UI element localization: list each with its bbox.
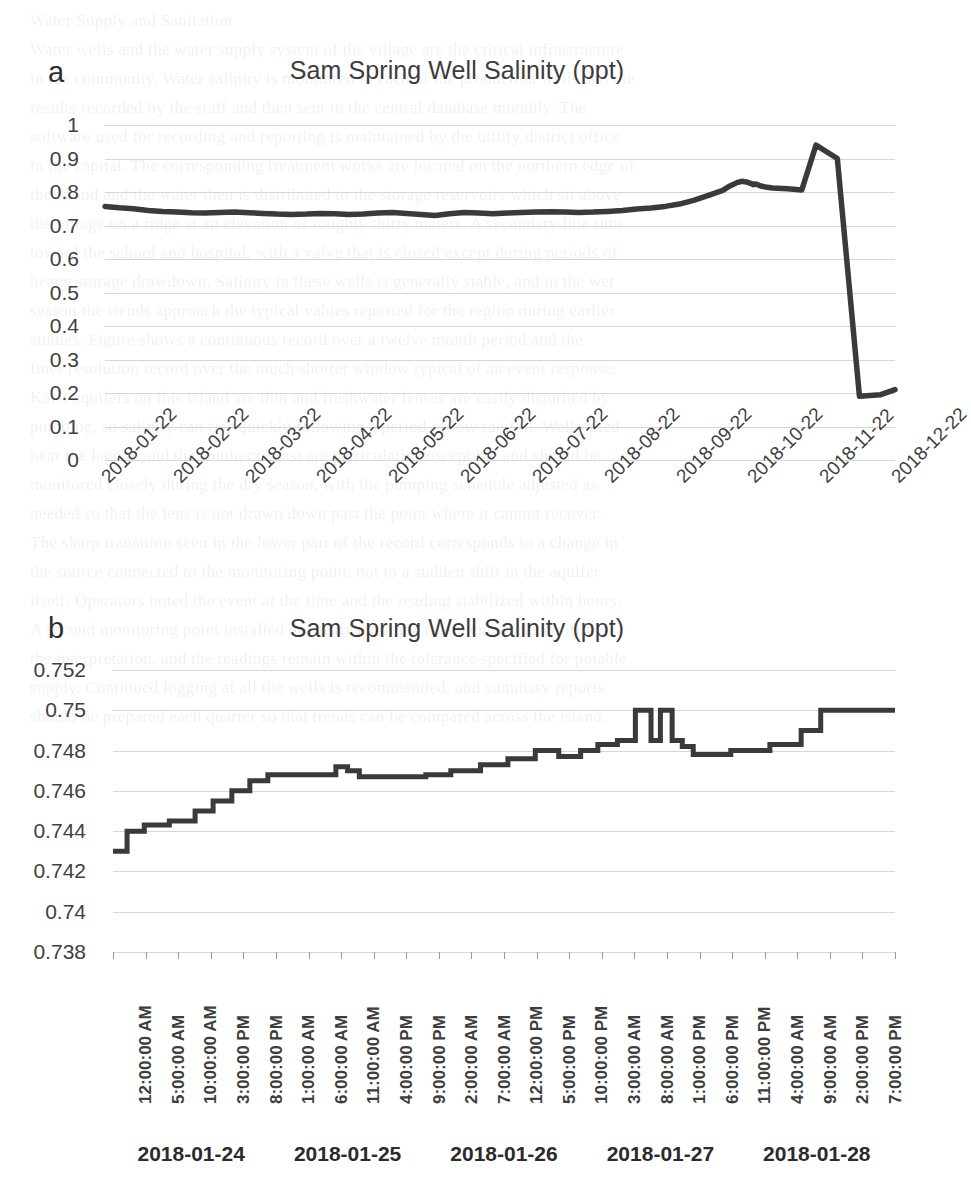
x-axis-time-label: 1:00:00 AM bbox=[299, 1015, 319, 1104]
x-axis-time-label: 11:00:00 AM bbox=[364, 1006, 384, 1104]
x-axis-time-label: 8:00:00 PM bbox=[267, 1015, 287, 1104]
x-axis-time-label: 3:00:00 AM bbox=[625, 1015, 645, 1104]
day-group-label: 2018-01-26 bbox=[450, 1142, 557, 1166]
x-axis-tick-mark bbox=[602, 952, 603, 959]
y-axis-tick-label: 0 bbox=[67, 448, 79, 472]
x-axis-tick-mark bbox=[276, 952, 277, 959]
x-axis-time-label: 8:00:00 AM bbox=[658, 1015, 678, 1104]
x-axis-tick-mark bbox=[634, 952, 635, 959]
y-axis-tick-label: 0.5 bbox=[50, 281, 79, 305]
x-axis-time-label: 5:00:00 PM bbox=[560, 1015, 580, 1104]
x-axis-tick-mark bbox=[862, 952, 863, 959]
panel-a-data-line bbox=[105, 125, 895, 460]
x-axis-time-label: 10:00:00 AM bbox=[201, 1005, 221, 1104]
panel-a-title: Sam Spring Well Salinity (ppt) bbox=[0, 56, 914, 85]
x-axis-time-label: 2:00:00 PM bbox=[853, 1015, 873, 1104]
x-axis-tick-label: 2018-12-22 bbox=[887, 403, 971, 487]
x-axis-tick-mark bbox=[797, 952, 798, 959]
x-axis-time-label: 6:00:00 PM bbox=[723, 1015, 743, 1104]
x-axis-time-label: 7:00:00 PM bbox=[886, 1015, 906, 1104]
x-axis-tick-mark bbox=[113, 952, 114, 959]
panel-b-data-line bbox=[113, 670, 895, 952]
y-axis-tick-label: 0.744 bbox=[33, 819, 86, 843]
y-axis-tick-label: 0.7 bbox=[50, 214, 79, 238]
day-group-label: 2018-01-28 bbox=[763, 1142, 870, 1166]
day-group-label: 2018-01-25 bbox=[294, 1142, 401, 1166]
x-axis-tick-mark bbox=[178, 952, 179, 959]
x-axis-tick-mark bbox=[146, 952, 147, 959]
y-axis-tick-label: 0.752 bbox=[33, 658, 86, 682]
y-axis-tick-label: 0.3 bbox=[50, 348, 79, 372]
x-axis-tick-mark bbox=[406, 952, 407, 959]
x-axis-tick-mark bbox=[374, 952, 375, 959]
y-axis-tick-label: 0.6 bbox=[50, 247, 79, 271]
x-axis-tick-mark bbox=[504, 952, 505, 959]
x-axis-time-label: 10:00:00 PM bbox=[592, 1006, 612, 1104]
x-axis-tick-mark bbox=[700, 952, 701, 959]
y-axis-tick-label: 0.748 bbox=[33, 739, 86, 763]
x-axis-tick-mark bbox=[341, 952, 342, 959]
x-axis-tick-mark bbox=[732, 952, 733, 959]
y-axis-tick-label: 0.742 bbox=[33, 859, 86, 883]
x-axis-time-label: 12:00:00 AM bbox=[136, 1005, 156, 1104]
x-axis-time-label: 4:00:00 PM bbox=[397, 1015, 417, 1104]
x-axis-time-label: 3:00:00 PM bbox=[234, 1015, 254, 1104]
panel-b-plot-area bbox=[113, 670, 895, 952]
x-axis-time-label: 12:00:00 PM bbox=[527, 1006, 547, 1104]
y-axis-tick-label: 0.4 bbox=[50, 314, 79, 338]
x-axis-tick-mark bbox=[569, 952, 570, 959]
x-axis-tick-mark bbox=[830, 952, 831, 959]
x-axis-time-label: 2:00:00 AM bbox=[462, 1015, 482, 1104]
chart-panel-b: b Sam Spring Well Salinity (ppt) 0.7520.… bbox=[0, 594, 914, 1203]
y-axis-tick-label: 0.75 bbox=[45, 698, 86, 722]
x-axis-tick-mark bbox=[309, 952, 310, 959]
day-group-label: 2018-01-24 bbox=[137, 1142, 244, 1166]
panel-b-y-axis-labels: 0.7520.750.7480.7460.7440.7420.740.738 bbox=[0, 670, 100, 952]
y-axis-tick-label: 0.746 bbox=[33, 779, 86, 803]
x-axis-time-label: 4:00:00 AM bbox=[788, 1015, 808, 1104]
x-axis-tick-mark bbox=[211, 952, 212, 959]
day-group-label: 2018-01-27 bbox=[607, 1142, 714, 1166]
y-axis-tick-label: 0.738 bbox=[33, 940, 86, 964]
y-axis-tick-label: 0.2 bbox=[50, 381, 79, 405]
chart-panel-a: a Sam Spring Well Salinity (ppt) 10.90.8… bbox=[0, 34, 914, 594]
y-axis-tick-label: 1 bbox=[67, 113, 79, 137]
x-axis-time-label: 1:00:00 PM bbox=[690, 1015, 710, 1104]
panel-a-y-axis-labels: 10.90.80.70.60.50.40.30.20.10 bbox=[0, 125, 92, 460]
x-axis-time-label: 9:00:00 PM bbox=[430, 1015, 450, 1104]
x-axis-tick-mark bbox=[243, 952, 244, 959]
panel-a-plot-area bbox=[105, 125, 895, 460]
x-axis-tick-mark bbox=[439, 952, 440, 959]
x-axis-time-label: 9:00:00 AM bbox=[821, 1015, 841, 1104]
x-axis-tick-mark bbox=[537, 952, 538, 959]
x-axis-time-label: 11:00:00 PM bbox=[755, 1007, 775, 1104]
x-axis-tick-mark bbox=[471, 952, 472, 959]
panel-b-title: Sam Spring Well Salinity (ppt) bbox=[0, 614, 914, 643]
x-axis-time-label: 7:00:00 AM bbox=[495, 1015, 515, 1104]
y-axis-tick-label: 0.1 bbox=[50, 415, 79, 439]
x-axis-tick-mark bbox=[765, 952, 766, 959]
x-axis-tick-mark bbox=[667, 952, 668, 959]
y-axis-tick-label: 0.74 bbox=[45, 900, 86, 924]
x-axis-time-label: 5:00:00 AM bbox=[169, 1015, 189, 1104]
y-axis-tick-label: 0.8 bbox=[50, 180, 79, 204]
x-axis-tick-mark bbox=[895, 952, 896, 959]
x-axis-time-label: 6:00:00 AM bbox=[332, 1015, 352, 1104]
y-axis-tick-label: 0.9 bbox=[50, 147, 79, 171]
